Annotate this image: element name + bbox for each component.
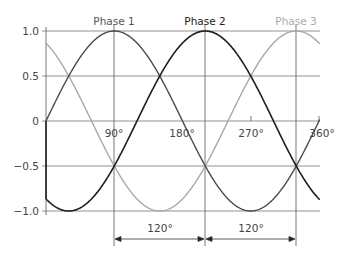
- y-label-1: 1.0: [22, 25, 39, 37]
- legend-phase1: Phase 1: [93, 15, 134, 27]
- y-label-neg0.5: −0.5: [14, 160, 40, 172]
- y-label-0.5: 0.5: [22, 70, 39, 82]
- dimension-label-1: 120°: [147, 222, 172, 234]
- x-label-180: 180°: [169, 127, 194, 139]
- arrowhead-right-2: [289, 237, 295, 242]
- labels: Phase 1 Phase 2 Phase 3 1.0 0.5 0 −0.5 −…: [14, 15, 335, 234]
- x-label-360: 360°: [309, 127, 334, 139]
- arrowhead-right-1: [198, 237, 204, 242]
- y-label-0: 0: [32, 115, 39, 127]
- legend-phase3: Phase 3: [275, 15, 316, 27]
- y-label-neg1: −1.0: [14, 205, 40, 217]
- arrowhead-left-2: [206, 237, 212, 242]
- dimension-label-2: 120°: [238, 222, 263, 234]
- three-phase-chart: Phase 1 Phase 2 Phase 3 1.0 0.5 0 −0.5 −…: [0, 0, 343, 254]
- arrowhead-left-1: [115, 237, 121, 242]
- x-label-270: 270°: [238, 127, 263, 139]
- legend-phase2: Phase 2: [184, 15, 225, 27]
- x-label-90: 90°: [105, 127, 124, 139]
